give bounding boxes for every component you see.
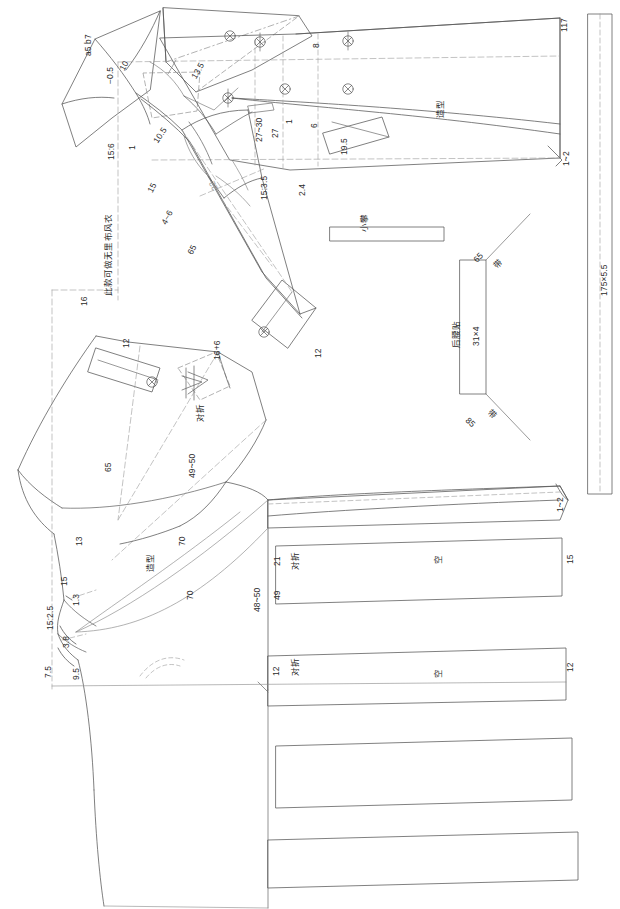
label-fold-pocket: 对折 [196, 404, 205, 422]
lower-body-panel [18, 470, 560, 906]
right-panel-b [276, 538, 562, 604]
right-panel-e [268, 832, 578, 888]
label-forty-nine: 49 [273, 590, 282, 600]
label-seventy-a: 70 [178, 536, 187, 546]
label-note-text: 此款可做无里布风衣 [104, 214, 113, 296]
label-sixty-five-front: 65 [104, 462, 113, 472]
label-nineteen-five: 19.5 [340, 138, 349, 155]
label-six: 6 [310, 123, 319, 128]
right-panel-d [276, 738, 572, 808]
collar-notch-detail [143, 60, 238, 118]
button-mark-4 [280, 84, 290, 94]
label-belt-size: 175×5.5 [600, 264, 609, 296]
button-mark-3 [343, 32, 353, 50]
label-three-eight: 3.8 [62, 636, 71, 648]
label-collar-ratio: a5 b7 [84, 34, 93, 56]
label-empty-b: 空 [434, 669, 443, 678]
label-one-b: 1 [285, 119, 294, 124]
collar-stand-piece [163, 8, 312, 92]
label-neg-half: −0.5 [106, 67, 115, 84]
label-seven-five: 7.5 [44, 666, 53, 678]
label-style-top: 造型 [436, 100, 445, 118]
label-forty-nine-fifty: 49~50 [188, 454, 197, 478]
label-one-two-top: 1~2 [562, 151, 571, 166]
small-loop-piece [330, 227, 444, 241]
belt-piece [588, 14, 612, 494]
button-mark-5 [343, 84, 353, 94]
label-fifteen-two-five: 15:2.5 [46, 606, 55, 630]
label-two-four: 2.4 [298, 184, 307, 196]
label-fifteen-right: 15 [566, 554, 575, 564]
label-eight: 8 [312, 43, 321, 48]
label-thirteen: 13 [75, 536, 84, 546]
top-panel-dart [248, 103, 274, 113]
label-fold-a: 对折 [291, 552, 300, 570]
label-twelve-right: 12 [566, 662, 575, 672]
pattern-vector-layer [0, 0, 620, 909]
label-fold-b: 对折 [291, 658, 300, 676]
label-twelve-pocket: 12 [122, 338, 131, 348]
label-twelve-fold: 12 [272, 666, 281, 676]
right-panel-c [268, 648, 566, 706]
label-fifteen-six: 15:6 [107, 143, 116, 160]
upper-body-panel [160, 18, 562, 170]
label-sixteen: 16 [80, 296, 89, 306]
label-twenty-one: 21 [273, 556, 282, 566]
label-empty-a: 空 [434, 555, 443, 564]
label-one-a: 1 [128, 145, 137, 150]
label-style-front: 造型 [146, 554, 155, 572]
label-one-three: 1.3 [72, 594, 81, 606]
top-panel-pocket [323, 117, 389, 154]
label-sixteen-plus-six: 16+6 [213, 340, 222, 360]
label-twenty-seven-thirty: 27~30 [255, 118, 264, 142]
label-twenty-seven: 27 [271, 128, 280, 138]
label-one-two-right: 1~2 [556, 497, 565, 512]
label-forty-eight-fifty: 48~50 [253, 588, 262, 612]
label-back-waist-facing-size: 31×4 [472, 326, 481, 346]
label-nine-five: 9.5 [72, 668, 81, 680]
label-seventy-b: 70 [186, 590, 195, 600]
label-fifteen-b: 15 [60, 576, 69, 586]
pattern-drawing-canvas: a5 b7 −0.5 10 13.5 15:6 1 10.5 15 4~6 65… [0, 0, 620, 909]
label-one-one-seven: 117 [560, 18, 569, 32]
label-twelve-cuff: 12 [314, 348, 323, 358]
label-back-waist-facing: 后腰贴 [452, 321, 461, 348]
label-fifteen-three-five: 15:3.5 [260, 176, 269, 200]
label-small-loop: 小攀 [360, 214, 369, 232]
